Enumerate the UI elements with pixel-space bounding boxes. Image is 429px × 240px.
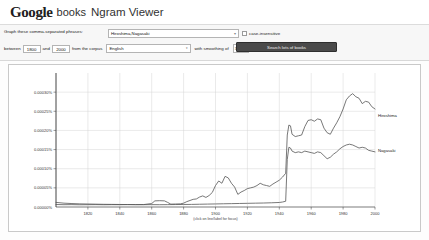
query-row-primary: Graph these comma-separated phrases: Hir…	[4, 29, 425, 41]
svg-text:1840: 1840	[115, 211, 125, 216]
query-input[interactable]: Hiroshima,Nagasaki ▾	[108, 29, 239, 38]
books-label[interactable]: books	[57, 6, 86, 18]
chevron-down-icon: ▾	[234, 30, 236, 37]
query-panel: Graph these comma-separated phrases: Hir…	[0, 25, 429, 61]
phrases-label: Graph these comma-separated phrases:	[4, 29, 99, 34]
query-input-value: Hiroshima,Nagasaki	[111, 30, 149, 37]
between-label: between	[4, 46, 21, 51]
svg-text:1920: 1920	[243, 211, 253, 216]
svg-text:1900: 1900	[211, 211, 221, 216]
svg-text:0.00020%: 0.00020%	[34, 128, 52, 133]
svg-text:0.00005%: 0.00005%	[34, 185, 52, 190]
ngram-viewer-page: Google books Ngram Viewer Graph these co…	[0, 0, 429, 240]
svg-text:1940: 1940	[275, 211, 285, 216]
case-insensitive-checkbox[interactable]	[242, 31, 247, 36]
svg-text:0.00015%: 0.00015%	[34, 147, 52, 152]
chart-container[interactable]: 0.00005%0.00010%0.00015%0.00020%0.00025%…	[8, 64, 421, 232]
page-title: Ngram Viewer	[91, 6, 164, 18]
chevron-down-icon: ▾	[186, 45, 188, 52]
svg-text:0.00010%: 0.00010%	[34, 166, 52, 171]
svg-text:1980: 1980	[339, 211, 349, 216]
app-header: Google books Ngram Viewer	[0, 0, 429, 25]
svg-text:1820: 1820	[83, 211, 93, 216]
year-start-input[interactable]: 1800	[23, 45, 41, 53]
case-insensitive-control[interactable]: case-insensitive	[242, 29, 280, 38]
svg-text:1960: 1960	[307, 211, 317, 216]
svg-text:Hiroshima: Hiroshima	[378, 113, 398, 118]
corpus-select-value: English	[109, 45, 123, 52]
google-logo[interactable]: Google	[10, 4, 53, 21]
svg-text:1880: 1880	[179, 211, 189, 216]
case-insensitive-label: case-insensitive	[249, 31, 280, 36]
svg-text:0.00030%: 0.00030%	[34, 90, 52, 95]
svg-text:0.00025%: 0.00025%	[34, 109, 52, 114]
svg-text:2000: 2000	[371, 211, 381, 216]
corpus-select[interactable]: English ▾	[106, 44, 191, 53]
and-label: and	[43, 46, 50, 51]
year-end-input[interactable]: 2000	[52, 45, 70, 53]
svg-text:0.00000%: 0.00000%	[34, 205, 52, 210]
search-button[interactable]: Search lots of books	[236, 42, 337, 52]
svg-text:Nagasaki: Nagasaki	[378, 148, 396, 153]
chart-footnote: (click on line/label for focus)	[9, 217, 422, 221]
smoothing-label: with smoothing of	[194, 46, 228, 51]
ngram-chart[interactable]: 0.00005%0.00010%0.00015%0.00020%0.00025%…	[9, 65, 420, 231]
corpus-label: from the corpus	[72, 46, 103, 51]
query-row-secondary: between 1800 and 2000 from the corpus En…	[4, 42, 425, 55]
svg-text:1860: 1860	[147, 211, 157, 216]
